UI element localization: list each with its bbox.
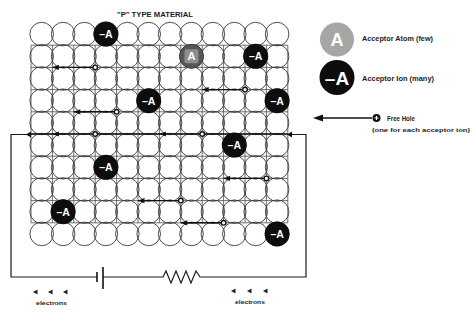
- lattice-atom: [116, 178, 140, 202]
- lattice-atom: [94, 200, 118, 224]
- acceptor-ion-symbol: –A: [325, 68, 350, 89]
- electron-flow-right: electrons: [231, 289, 268, 306]
- lattice-atom: [30, 156, 54, 180]
- hole-path: [181, 220, 226, 225]
- lattice-atom: [201, 222, 225, 246]
- lattice-atom: [180, 178, 204, 202]
- lattice-atom: [265, 156, 289, 180]
- acceptor-ion-symbol: –A: [56, 206, 70, 218]
- lattice-atom: [73, 22, 97, 46]
- lattice-atom: [30, 22, 54, 46]
- acceptor-atom-symbol: A: [331, 30, 344, 50]
- acceptor-ion: –A: [93, 155, 118, 180]
- acceptor-ion-symbol: –A: [270, 95, 284, 107]
- lattice-atom: [158, 133, 182, 157]
- lattice-atom: [94, 89, 118, 113]
- lattice-atom: [244, 111, 268, 135]
- lattice-atom: [180, 111, 204, 135]
- lattice-atom: [201, 67, 225, 91]
- lattice-atom: [223, 45, 247, 69]
- lattice-atom: [223, 67, 247, 91]
- lattice-atom: [201, 178, 225, 202]
- lattice-atom: [158, 45, 182, 69]
- acceptor-ion: –A: [265, 221, 290, 246]
- lattice-atom: [244, 222, 268, 246]
- lattice-atom: [223, 178, 247, 202]
- acceptor-ion: –A: [243, 44, 268, 69]
- lattice-atom: [73, 133, 97, 157]
- lattice-atom: [265, 45, 289, 69]
- lattice-atom: [223, 200, 247, 224]
- acceptor-ion-symbol: –A: [99, 28, 113, 40]
- lattice-atom: [30, 111, 54, 135]
- lattice-atom: [158, 200, 182, 224]
- acceptor-ion-symbol: –A: [142, 95, 156, 107]
- lattice-atom: [94, 67, 118, 91]
- lattice-atom: [201, 89, 225, 113]
- lattice-atom: [201, 133, 225, 157]
- lattice-atom: [180, 89, 204, 113]
- acceptor-ion: –A: [265, 88, 290, 113]
- lattice-atom: [158, 111, 182, 135]
- lattice-atom: [51, 45, 75, 69]
- lattice-atom: [137, 133, 161, 157]
- lattice-atom: [201, 111, 225, 135]
- lattice-atom: [180, 67, 204, 91]
- hole-motion-arrowhead-icon: [313, 115, 323, 122]
- lattice-atom: [158, 67, 182, 91]
- lattice-atom: [51, 222, 75, 246]
- lattice-atom: [158, 222, 182, 246]
- lattice-atom: [94, 222, 118, 246]
- lattice-atom: [180, 222, 204, 246]
- lattice-atom: [137, 222, 161, 246]
- lattice-atom: [30, 222, 54, 246]
- lattice-atom: [73, 89, 97, 113]
- electron-arrow-icon: [63, 290, 68, 295]
- lattice-atom: [265, 67, 289, 91]
- lattice-atom: [73, 222, 97, 246]
- acceptor-atom-label: Acceptor Atom (few): [362, 35, 433, 43]
- acceptor-atom-symbol: A: [188, 50, 196, 62]
- lattice-atom: [244, 178, 268, 202]
- lattice-atom: [51, 178, 75, 202]
- hole-path: [52, 65, 97, 70]
- lattice-atom: [51, 89, 75, 113]
- acceptor-ion-symbol: –A: [249, 50, 263, 62]
- lattice-atom: [223, 22, 247, 46]
- lattice-atom: [265, 22, 289, 46]
- hole-icon: [200, 132, 205, 137]
- lattice-atom: [137, 156, 161, 180]
- hole-path: [202, 87, 247, 92]
- lattice-atom: [265, 200, 289, 224]
- lattice-atom: [158, 178, 182, 202]
- lattice-atom: [116, 222, 140, 246]
- legend-acceptor-ion: –A Acceptor Ion (many): [320, 60, 435, 95]
- lattice-atom: [223, 156, 247, 180]
- lattice-atom: [265, 133, 289, 157]
- lattice-atom: [116, 133, 140, 157]
- acceptor-ion-symbol: –A: [270, 228, 284, 240]
- lattice-atom: [201, 45, 225, 69]
- lattice-atom: [265, 178, 289, 202]
- p-type-material-diagram: "P" TYPE MATERIAL A–A–A–A–A–A–A–A–A elec…: [0, 0, 476, 323]
- lattice-atom: [137, 111, 161, 135]
- electron-arrow-icon: [263, 289, 268, 294]
- lattice-atom: [30, 200, 54, 224]
- lattice-atom: [116, 156, 140, 180]
- lattice-atom: [201, 22, 225, 46]
- lattice-atom: [30, 89, 54, 113]
- acceptor-atom: A: [180, 44, 204, 68]
- lattice-atom: [223, 111, 247, 135]
- hole-icon: [243, 87, 248, 92]
- lattice-atom: [158, 22, 182, 46]
- lattice-atom: [116, 200, 140, 224]
- lattice-atom: [116, 111, 140, 135]
- hole-icon: [179, 198, 184, 203]
- hole-icon: [93, 65, 98, 70]
- lattice-atom: [158, 156, 182, 180]
- diagram-title: "P" TYPE MATERIAL: [117, 11, 194, 18]
- electrons-label-left: electrons: [36, 300, 68, 306]
- acceptor-ion: –A: [51, 199, 76, 224]
- lattice-atom: [73, 178, 97, 202]
- lattice-atom: [137, 178, 161, 202]
